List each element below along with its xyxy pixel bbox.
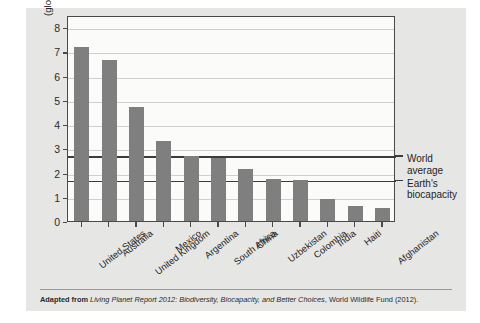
x-tick-label: Haiti [363, 229, 383, 248]
bar [266, 179, 281, 221]
y-tick-label: 1 [44, 193, 60, 204]
plot-area [67, 16, 395, 222]
source-caption: Adapted from Living Planet Report 2012: … [40, 295, 458, 305]
y-tick-label: 0 [44, 217, 60, 228]
bar [156, 141, 171, 221]
x-tick-mark [163, 222, 164, 227]
x-tick-mark [327, 222, 328, 227]
reference-line-label: Worldaverage [407, 153, 443, 177]
reference-line-label: Earth'sbiocapacity [407, 178, 457, 202]
bar [184, 156, 199, 221]
x-tick-label: Afghanistan [397, 229, 441, 267]
x-tick-mark [108, 222, 109, 227]
reference-line-label-line2: biocapacity [407, 189, 457, 201]
figure-panel: Ecological footprint (global hectares pe… [26, 8, 466, 311]
caption-prefix: Adapted from [40, 295, 90, 304]
x-tick-label: China [255, 229, 280, 251]
x-tick-mark [190, 222, 191, 227]
footer-divider [40, 289, 452, 290]
y-tick-label: 6 [44, 71, 60, 82]
x-tick-mark [354, 222, 355, 227]
y-tick-mark [63, 222, 67, 223]
caption-suffix: , World Wildlife Fund (2012). [325, 295, 419, 304]
bar [102, 60, 117, 221]
x-tick-mark [299, 222, 300, 227]
y-tick-label: 3 [44, 144, 60, 155]
x-tick-mark [135, 222, 136, 227]
caption-source-title: Living Planet Report 2012: Biodiversity,… [90, 295, 325, 304]
bar [129, 107, 144, 221]
y-tick-label: 7 [44, 47, 60, 58]
x-tick-mark [245, 222, 246, 227]
x-tick-mark [81, 222, 82, 227]
x-tick-mark [381, 222, 382, 227]
reference-line-tick [395, 180, 403, 181]
bar [375, 208, 390, 221]
x-tick-mark [272, 222, 273, 227]
bar [211, 158, 226, 221]
bar [74, 47, 89, 221]
y-tick-label: 2 [44, 168, 60, 179]
x-tick-mark [217, 222, 218, 227]
reference-line-tick [395, 155, 403, 156]
bar [320, 199, 335, 221]
bar-series [68, 17, 394, 221]
reference-line-label-line1: World [407, 153, 443, 165]
y-tick-label: 8 [44, 23, 60, 34]
bar [293, 180, 308, 221]
bar [348, 206, 363, 221]
y-tick-label: 4 [44, 120, 60, 131]
bar [238, 169, 253, 221]
reference-line-label-line1: Earth's [407, 178, 457, 190]
y-axis-title-line2: (global hectares per person) [42, 0, 53, 16]
reference-line-label-line2: average [407, 165, 443, 177]
y-tick-label: 5 [44, 96, 60, 107]
